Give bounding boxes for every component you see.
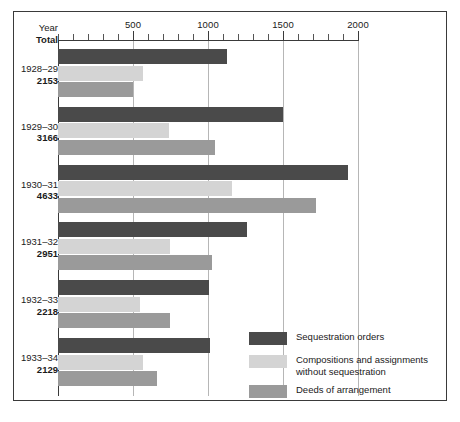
category-label: 1930–314633 <box>8 179 58 202</box>
x-tick-mark <box>358 31 359 40</box>
bar <box>58 338 210 353</box>
category-year: 1928–29 <box>8 63 58 75</box>
category-year: 1929–30 <box>8 121 58 133</box>
x-tick-mark <box>238 34 239 40</box>
category-total: 2218 <box>8 306 58 318</box>
x-tick-mark <box>103 34 104 40</box>
legend-item: Compositions and assignments without seq… <box>249 354 449 377</box>
bar <box>58 140 215 155</box>
x-tick-mark <box>133 31 134 40</box>
bar <box>58 107 283 122</box>
category-total: 2951 <box>8 248 58 260</box>
bar <box>58 123 169 138</box>
bar <box>58 82 133 97</box>
legend-item: Deeds of arrangement <box>249 384 449 400</box>
bar <box>58 371 157 386</box>
bar <box>58 355 143 370</box>
x-tick-mark <box>223 34 224 40</box>
x-tick-mark <box>283 31 284 40</box>
x-tick-mark <box>193 34 194 40</box>
legend-label: Deeds of arrangement <box>296 384 449 396</box>
bar <box>58 239 170 254</box>
row-header-year: Year <box>13 22 58 34</box>
chart-figure: Year Total 500100015002000 1928–29215319… <box>0 0 460 422</box>
x-tick-mark <box>208 31 209 40</box>
bar <box>58 255 212 270</box>
bar <box>58 313 170 328</box>
x-tick-mark <box>253 34 254 40</box>
row-header: Year Total <box>13 22 58 45</box>
x-tick-mark <box>58 34 59 40</box>
legend: Sequestration ordersCompositions and ass… <box>249 331 449 407</box>
bar <box>58 222 247 237</box>
x-tick-label-1500: 1500 <box>272 19 294 30</box>
x-tick-mark <box>118 34 119 40</box>
category-label: 1932–332218 <box>8 294 58 317</box>
bar <box>58 165 348 180</box>
x-tick-mark <box>328 34 329 40</box>
category-year: 1931–32 <box>8 236 58 248</box>
x-tick-mark <box>148 34 149 40</box>
x-tick-label-500: 500 <box>125 19 141 30</box>
x-tick-mark <box>268 34 269 40</box>
x-tick-mark <box>73 34 74 40</box>
bar <box>58 49 227 64</box>
legend-item: Sequestration orders <box>249 331 449 347</box>
legend-label: Compositions and assignments without seq… <box>296 354 449 377</box>
bar <box>58 66 143 81</box>
category-total: 3166 <box>8 132 58 144</box>
x-tick-mark <box>298 34 299 40</box>
bar <box>58 280 209 295</box>
category-label: 1931–322951 <box>8 236 58 259</box>
bar <box>58 198 316 213</box>
x-tick-mark <box>178 34 179 40</box>
category-label: 1929–303166 <box>8 121 58 144</box>
x-tick-mark <box>88 34 89 40</box>
x-tick-mark <box>163 34 164 40</box>
row-header-total: Total <box>13 34 58 46</box>
legend-label: Sequestration orders <box>296 331 449 343</box>
legend-swatch <box>249 385 287 398</box>
category-label: 1933–342129 <box>8 352 58 375</box>
category-total: 4633 <box>8 190 58 202</box>
category-total: 2129 <box>8 364 58 376</box>
bar <box>58 297 140 312</box>
category-total: 2153 <box>8 75 58 87</box>
category-year: 1933–34 <box>8 352 58 364</box>
category-label: 1928–292153 <box>8 63 58 86</box>
x-tick-label-2000: 2000 <box>347 19 369 30</box>
category-year: 1930–31 <box>8 179 58 191</box>
x-tick-label-1000: 1000 <box>197 19 219 30</box>
legend-swatch <box>249 355 287 368</box>
x-tick-mark <box>313 34 314 40</box>
category-year: 1932–33 <box>8 294 58 306</box>
x-tick-mark <box>343 34 344 40</box>
legend-swatch <box>249 332 287 345</box>
bar <box>58 181 232 196</box>
